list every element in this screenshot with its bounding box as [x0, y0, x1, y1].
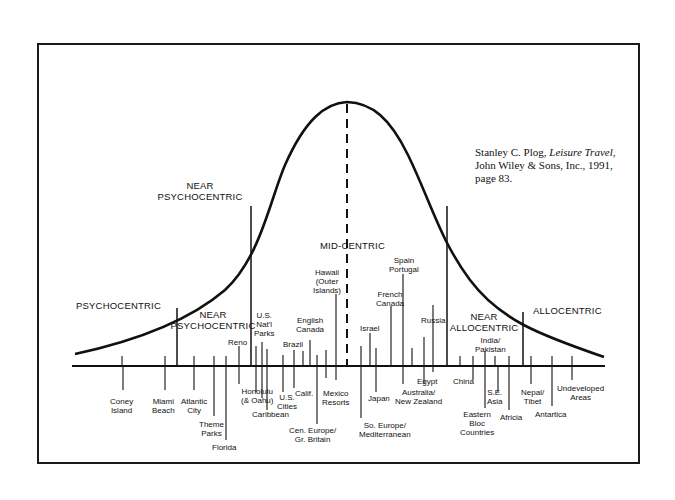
destination-india-pakistan: India/ Pakistan — [475, 336, 506, 354]
destination-nepal-tibet: Nepal/ Tibet — [521, 388, 544, 406]
zone-allocentric: ALLOCENTRIC — [533, 305, 602, 316]
citation: Stanley C. Plog, Leisure Travel, John Wi… — [475, 146, 615, 185]
destination-eastern-bloc-countries: Eastern Bloc Countries — [460, 410, 494, 437]
destination-atlantic-city: Atlantic City — [181, 397, 207, 415]
zone-mid-centric: MID-CENTRIC — [320, 240, 385, 251]
destination-reno: Reno — [228, 338, 247, 347]
destination-coney-island: Coney Island — [110, 397, 133, 415]
destination-so-europe-mediterranean: So. Europe/ Mediterranean — [359, 421, 411, 439]
destination-mexico-resorts: Mexico Resorts — [322, 389, 350, 407]
destination-us-cities: U.S. Cities — [277, 393, 297, 411]
destination-hawaii-outer-islands: Hawaii (Outer Islands) — [313, 268, 341, 295]
destination-egypt: Egypt — [417, 377, 437, 386]
destination-caribbean: Caribbean — [252, 410, 289, 419]
zone-near-psychocentric-upper: NEAR PSYCHOCENTRIC — [150, 180, 250, 202]
destination-australia-new-zealand: Australia/ New Zealand — [395, 388, 442, 406]
citation-line-1: Stanley C. Plog, Leisure Travel, — [475, 146, 615, 159]
destination-russia: Russia — [421, 316, 445, 325]
citation-line-2: John Wiley & Sons, Inc., 1991, — [475, 159, 615, 172]
zone-near-psychocentric-lower: NEAR PSYCHOCENTRIC — [168, 309, 258, 331]
destination-china: China — [453, 377, 474, 386]
destination-calif: Calif. — [295, 389, 313, 398]
destination-antartica: Antartica — [535, 410, 567, 419]
zone-near-allocentric: NEAR ALLOCENTRIC — [444, 311, 524, 333]
destination-spain-portugal: Spain Portugal — [389, 256, 419, 274]
destination-english-canada: English Canada — [296, 316, 324, 334]
destination-theme-parks: Theme Parks — [199, 420, 224, 438]
bell-curve — [75, 102, 604, 357]
destination-undeveloped-areas: Undeveloped Areas — [557, 384, 604, 402]
destination-se-asia: S.E. Asia — [487, 388, 503, 406]
destination-honolulu-oahu: Honolulu (& Oahu) — [241, 387, 273, 405]
destination-japan: Japan — [368, 394, 390, 403]
citation-line-3: page 83. — [475, 172, 615, 185]
destination-miami-beach: Miami Beach — [152, 397, 175, 415]
destination-africia: Africia — [500, 413, 522, 422]
destination-french-canada: French Canada — [376, 290, 404, 308]
destination-israel: Israel — [360, 324, 380, 333]
destination-brazil: Brazil — [283, 340, 303, 349]
destination-florida: Florida — [212, 443, 236, 452]
destination-cen-europe-gr-britain: Cen. Europe/ Gr. Britain — [289, 426, 336, 444]
zone-psychocentric: PSYCHOCENTRIC — [76, 300, 161, 311]
destination-us-natl-parks: U.S. Nat'l Parks — [254, 311, 274, 338]
